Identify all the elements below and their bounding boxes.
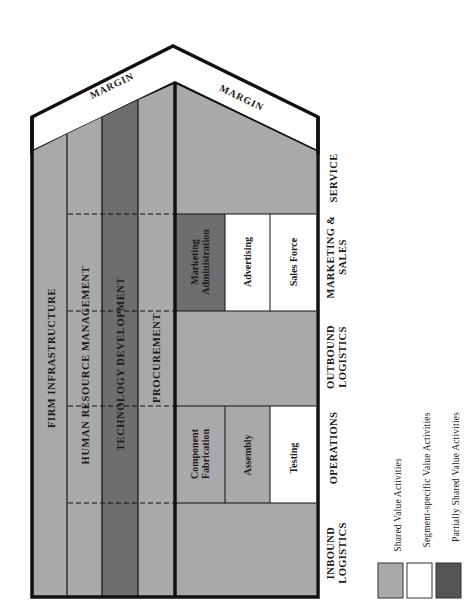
line: Component	[189, 429, 200, 479]
line: OUTBOUND	[325, 325, 337, 389]
label-firm-infrastructure: FIRM INFRASTRUCTURE	[46, 288, 58, 428]
line: MARKETING &	[325, 216, 337, 299]
label-component-fabrication: Component Fabrication	[189, 429, 211, 479]
legend-swatch-partially-shared	[436, 563, 461, 598]
label-assembly: Assembly	[242, 434, 253, 475]
legend-label-partially-shared: Partially Shared Value Activities	[451, 412, 461, 542]
line: Administration	[200, 229, 211, 295]
label-marketing-administration: Marketing Administration	[189, 229, 211, 295]
label-advertising: Advertising	[242, 237, 253, 287]
legend-swatch-shared	[378, 563, 403, 598]
label-sales-force: Sales Force	[288, 238, 299, 286]
label-service: SERVICE	[328, 153, 340, 202]
row-inbound-logistics	[176, 503, 316, 596]
row-outbound-logistics	[176, 311, 316, 406]
line: LOGISTICS	[337, 325, 349, 389]
line: Fabrication	[200, 429, 211, 479]
label-outbound-logistics: OUTBOUND LOGISTICS	[325, 325, 348, 389]
line: SALES	[337, 216, 349, 299]
line: INBOUND	[325, 522, 337, 583]
label-marketing-sales: MARKETING & SALES	[325, 216, 348, 299]
label-testing: Testing	[288, 443, 299, 474]
value-chain-diagram: MARGIN MARGIN FIRM INFRASTRUCTURE HUMAN …	[0, 0, 471, 612]
legend-label-segment-specific: Segment-specific Value Activities	[422, 412, 432, 547]
legend-label-shared: Shared Value Activities	[393, 458, 403, 552]
line: Marketing	[189, 229, 200, 295]
label-inbound-logistics: INBOUND LOGISTICS	[325, 522, 348, 583]
label-human-resource-management: HUMAN RESOURCE MANAGEMENT	[80, 266, 92, 465]
legend-swatch-segment-specific	[407, 563, 432, 598]
label-procurement: PROCUREMENT	[151, 313, 163, 403]
label-operations: OPERATIONS	[328, 412, 340, 485]
line: LOGISTICS	[337, 522, 349, 583]
label-technology-development: TECHNOLOGY DEVELOPMENT	[115, 277, 127, 451]
